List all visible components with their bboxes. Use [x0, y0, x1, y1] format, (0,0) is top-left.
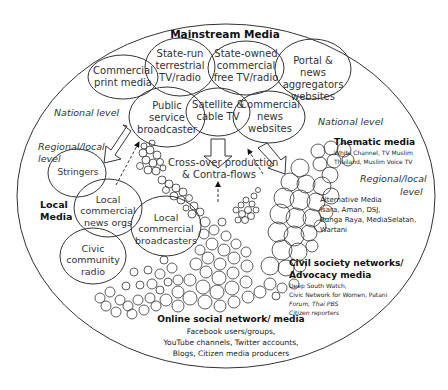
crossover-line-1: Cross-over production — [168, 157, 270, 169]
label-regional-left-1: Regional/local — [38, 141, 105, 152]
arrow-down-left-hollow — [104, 125, 131, 163]
label-regional-left-2: level — [38, 153, 61, 164]
civil-society-title-2: Advocacy media — [289, 270, 371, 281]
thematic-media-line-2: Thailand, Muslim Voice TV — [334, 158, 412, 167]
thematic-media-line-1: White Channel, TV Muslim — [334, 149, 413, 158]
label-national-level-right: National level — [318, 116, 383, 127]
online-media-line-1: Facebook users/groups, — [146, 327, 316, 338]
online-media-line-2: YouTube channels, Twitter accounts, — [146, 338, 316, 349]
civil-society-title-1: Civil society networks/ — [289, 258, 404, 269]
thematic-media-title: Thematic media — [334, 137, 415, 148]
alternative-media-line-1: Isara, Aman, DSJ, — [320, 205, 381, 215]
node-stringers: Stringers — [52, 167, 104, 178]
node-civic-community-radio: Civic community radio — [62, 243, 124, 277]
arrow-dashed-up-left — [116, 144, 138, 185]
node-state-run-terrestrial: State-run terrestrial TV/radio — [150, 48, 210, 84]
online-media-line-3: Blogs, Citizen media producers — [146, 349, 316, 360]
online-media-title: Online social network/ media — [156, 314, 306, 325]
crossover-line-2: & Contra-flows — [168, 169, 270, 181]
civil-society-line-1: Deep South Watch, — [289, 282, 347, 291]
alternative-media-title: Alternative Media — [320, 195, 382, 205]
local-media-title-1: Local — [40, 199, 68, 210]
label-national-level-left: National level — [54, 107, 119, 118]
node-local-commercial-broadcasters: Local commercial broadcasters — [128, 212, 204, 246]
node-commercial-news-websites: Commercial news websites — [238, 99, 302, 135]
diagram-title: Mainstream Media — [170, 28, 280, 41]
node-commercial-print-media: Commercial print media — [92, 65, 154, 89]
alternative-media-line-3: Wartani — [320, 225, 347, 235]
node-portal-news-aggregators: Portal & news aggregators websites — [280, 55, 346, 103]
node-state-owned-commercial: State-owned commercial free TV/radio — [212, 48, 280, 84]
label-regional-right-2: level — [400, 186, 423, 197]
civil-society-line-2: Civic Network for Women, Patani — [289, 291, 387, 300]
local-media-title-2: Media — [40, 211, 72, 222]
alternative-media-line-2: Bunga Raya, MediaSelatan, — [320, 215, 416, 225]
label-regional-right-1: Regional/local — [360, 173, 427, 184]
civil-society-line-3: Forum, Thai PBS — [289, 300, 338, 309]
